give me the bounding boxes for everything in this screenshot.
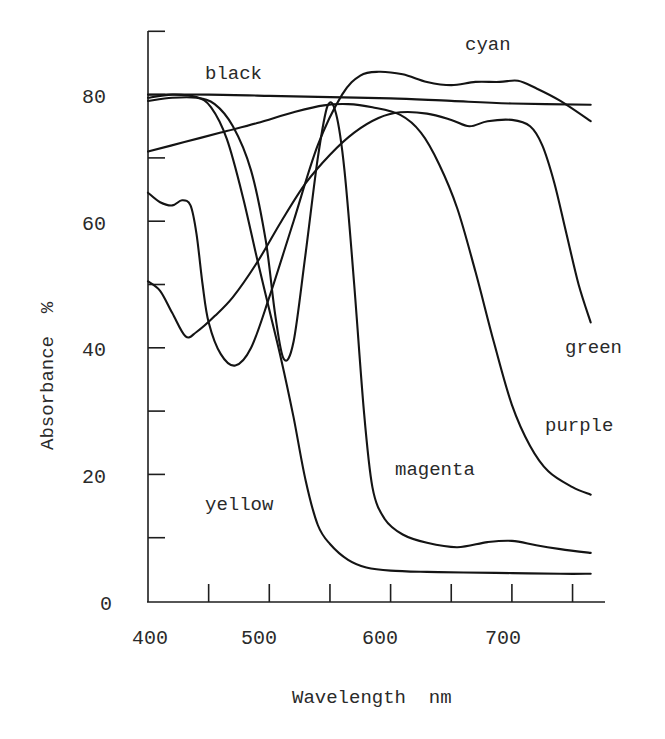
label-black: black xyxy=(205,63,262,85)
x-axis-label: Wavelength nm xyxy=(292,687,452,709)
curve-magenta xyxy=(148,97,591,553)
x-ticks xyxy=(209,584,573,602)
y-tick-label-0: 0 xyxy=(100,593,112,616)
x-tick-label-700: 700 xyxy=(485,627,521,650)
label-magenta: magenta xyxy=(395,459,475,481)
x-tick-label-600: 600 xyxy=(362,627,398,650)
y-ticks xyxy=(148,31,165,537)
x-tick-label-500: 500 xyxy=(241,627,277,650)
y-tick-label-60: 60 xyxy=(82,213,106,236)
y-tick-label-80: 80 xyxy=(82,86,106,109)
label-purple: purple xyxy=(545,415,613,437)
curve-cyan xyxy=(148,72,591,366)
y-tick-labels: 80 60 40 20 0 xyxy=(82,86,112,616)
x-tick-labels: 400 500 600 700 xyxy=(132,627,521,650)
label-yellow: yellow xyxy=(205,494,274,516)
label-green: green xyxy=(565,337,622,359)
y-tick-label-40: 40 xyxy=(82,339,106,362)
absorbance-chart: 80 60 40 20 0 400 500 600 700 Wavelength… xyxy=(0,0,665,739)
y-axis-label: Absorbance % xyxy=(37,301,59,450)
label-cyan: cyan xyxy=(465,34,511,56)
curve-purple xyxy=(148,104,591,495)
series-labels: black cyan green purple magenta yellow xyxy=(205,34,622,516)
curve-green xyxy=(148,112,591,338)
y-tick-label-20: 20 xyxy=(82,466,106,489)
x-tick-label-400: 400 xyxy=(132,627,168,650)
